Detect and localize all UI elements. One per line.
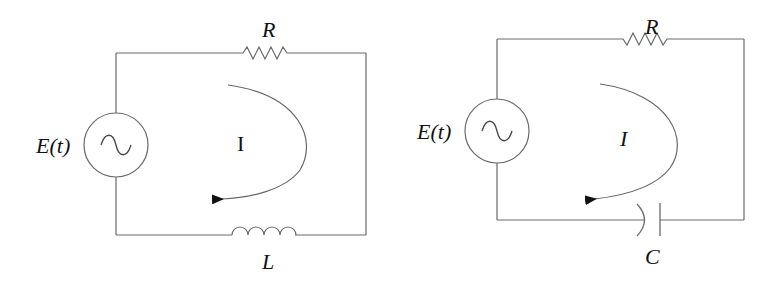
rc-resistor-label: R xyxy=(644,14,659,39)
ac-source-icon xyxy=(465,99,529,163)
rc-source-label: E(t) xyxy=(416,119,451,144)
rl-current-label: I xyxy=(237,131,244,156)
inductor-icon xyxy=(232,227,296,235)
ac-source-icon xyxy=(84,113,148,177)
rc-top-wire xyxy=(497,33,744,45)
circuit-diagrams: R L E(t) I R C E(t) I xyxy=(0,0,780,283)
rc-current-label: I xyxy=(619,126,629,151)
rl-circuit: R L E(t) I xyxy=(35,17,366,274)
rc-circuit: R C E(t) I xyxy=(416,14,744,269)
current-arrow-icon xyxy=(595,84,677,199)
rl-inductor-label: L xyxy=(261,249,274,274)
current-arrow-icon xyxy=(222,85,306,199)
rl-top-wire xyxy=(116,47,366,59)
rc-capacitor-label: C xyxy=(645,244,660,269)
rl-resistor-label: R xyxy=(261,17,276,42)
rl-source-label: E(t) xyxy=(35,133,70,158)
